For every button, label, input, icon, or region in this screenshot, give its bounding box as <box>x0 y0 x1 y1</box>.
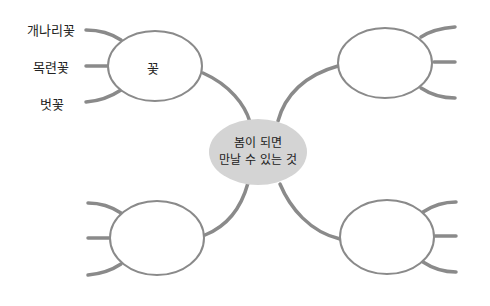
node-top-right <box>338 28 432 98</box>
leaf-branch <box>421 88 455 98</box>
center-label-line2: 만날 수 있는 것 <box>210 152 306 169</box>
leaf-branch <box>421 27 455 37</box>
center-label-line1: 봄이 되면 <box>210 135 306 152</box>
leaf-label-cherry-blossom: 벗꽃 <box>40 94 64 113</box>
branch-center-bottom-right <box>280 184 340 239</box>
node-label-top-left: 꽃 <box>147 58 159 77</box>
leaf-branch <box>88 264 121 275</box>
leaf-label-magnolia: 목련꽃 <box>33 57 69 76</box>
branch-center-top-left <box>203 73 250 122</box>
leaf-label-forsythia: 개나리꽃 <box>27 20 75 39</box>
center-label: 봄이 되면 만날 수 있는 것 <box>210 135 306 169</box>
leaf-branch <box>88 203 121 213</box>
node-bottom-left <box>110 201 204 275</box>
node-bottom-right <box>340 200 434 274</box>
leaf-branch <box>86 90 121 102</box>
leaf-branch <box>423 202 456 212</box>
leaf-branch <box>86 30 121 40</box>
leaf-branch <box>423 262 456 272</box>
branch-center-bottom-left <box>205 183 248 235</box>
branch-center-top-right <box>278 66 338 121</box>
